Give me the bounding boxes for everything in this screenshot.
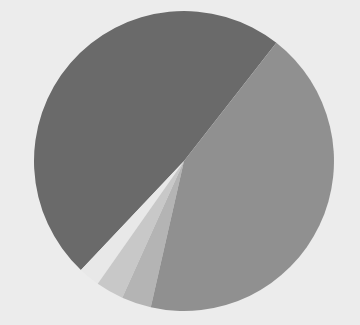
pie-slice-group (34, 11, 334, 311)
pie-chart-container (0, 0, 360, 325)
pie-chart-svg (0, 0, 360, 325)
